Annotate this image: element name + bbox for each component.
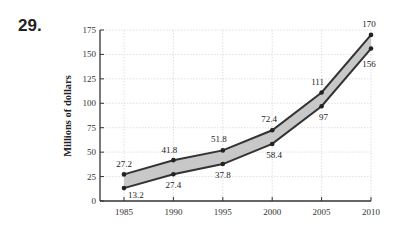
data-point xyxy=(221,148,226,153)
data-point xyxy=(319,104,324,109)
lower-value-label: 37.8 xyxy=(215,170,231,180)
y-tick-label: 25 xyxy=(87,172,97,182)
chart: 0255075100125150175198519901995200020052… xyxy=(0,0,393,227)
data-point xyxy=(171,172,176,177)
upper-value-label: 72.4 xyxy=(261,114,277,124)
x-tick-label: 2000 xyxy=(263,207,282,217)
y-tick-label: 150 xyxy=(83,49,97,59)
data-point xyxy=(319,90,324,95)
data-point xyxy=(122,186,127,191)
lower-value-label: 156 xyxy=(362,59,376,69)
y-axis-label: Millions of dollars xyxy=(62,75,73,157)
upper-value-label: 27.2 xyxy=(116,159,132,169)
lower-value-label: 58.4 xyxy=(266,150,282,160)
x-tick-label: 1985 xyxy=(115,207,134,217)
x-tick-label: 1990 xyxy=(164,207,183,217)
y-tick-label: 50 xyxy=(87,147,97,157)
upper-value-label: 170 xyxy=(362,19,376,29)
data-point xyxy=(369,33,374,38)
data-point xyxy=(270,142,275,147)
data-point xyxy=(122,172,127,177)
y-tick-label: 100 xyxy=(83,98,97,108)
data-point xyxy=(369,46,374,51)
y-tick-label: 75 xyxy=(87,123,97,133)
y-tick-label: 175 xyxy=(83,25,97,35)
y-tick-label: 0 xyxy=(92,196,97,206)
y-tick-label: 125 xyxy=(83,74,97,84)
lower-value-label: 97 xyxy=(319,112,329,122)
data-point xyxy=(221,162,226,167)
x-tick-label: 2010 xyxy=(362,207,381,217)
lower-value-label: 27.4 xyxy=(166,180,182,190)
data-point xyxy=(171,158,176,163)
upper-value-label: 41.8 xyxy=(162,145,178,155)
lower-value-label: 13.2 xyxy=(128,190,144,200)
x-tick-label: 2005 xyxy=(313,207,332,217)
x-tick-label: 1995 xyxy=(214,207,233,217)
upper-value-label: 51.8 xyxy=(211,134,227,144)
upper-value-label: 111 xyxy=(311,77,324,87)
fill-band xyxy=(124,35,371,188)
data-point xyxy=(270,128,275,133)
